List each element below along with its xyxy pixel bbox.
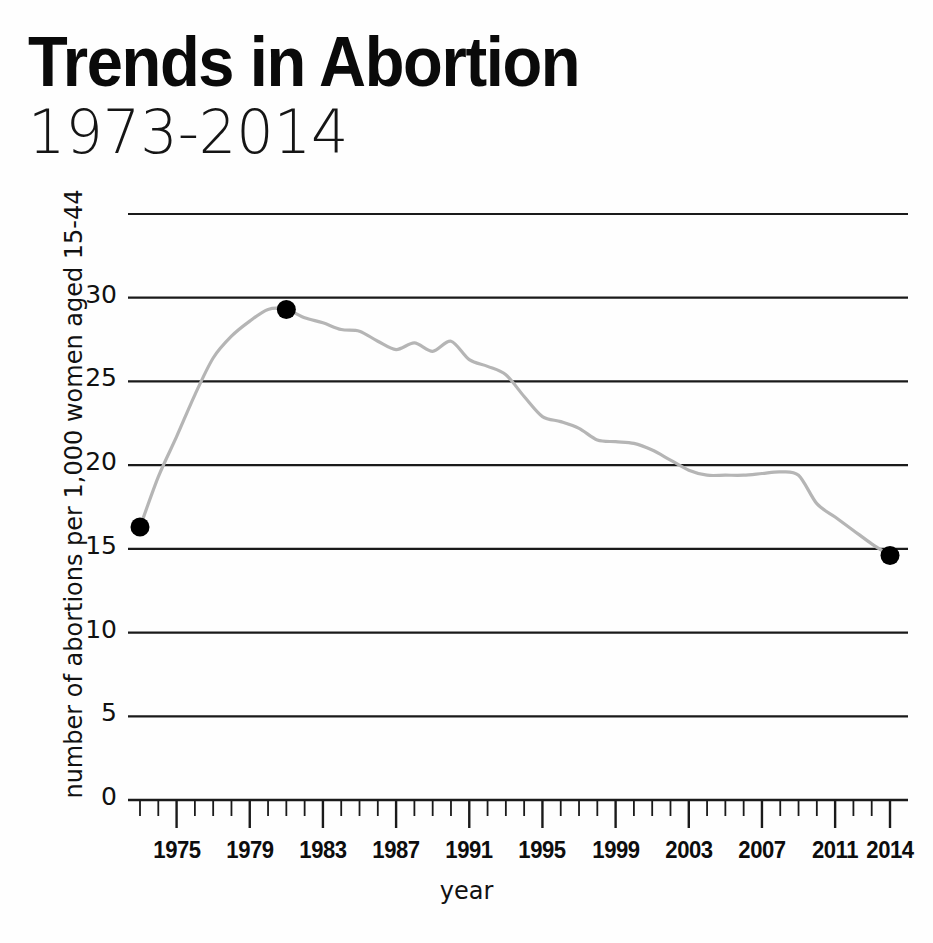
x-axis-title: year (0, 877, 933, 905)
x-tick-label-2007: 2007 (721, 836, 804, 864)
x-axis (128, 800, 908, 828)
data-series-line (140, 308, 890, 555)
x-tick-label-2003: 2003 (647, 836, 730, 864)
y-tick-label-30: 30 (57, 280, 117, 309)
x-tick-label-1979: 1979 (208, 836, 291, 864)
y-tick-label-15: 15 (57, 531, 117, 560)
x-tick-label-1983: 1983 (282, 836, 365, 864)
x-tick-label-1975: 1975 (135, 836, 218, 864)
marker-start (131, 518, 150, 537)
y-tick-label-10: 10 (57, 615, 117, 644)
y-tick-label-0: 0 (57, 782, 117, 811)
y-tick-label-5: 5 (57, 698, 117, 727)
gridlines (128, 214, 908, 716)
x-tick-label-1995: 1995 (501, 836, 584, 864)
title-block: Trends in Abortion 1973-2014 (28, 26, 908, 164)
page-subtitle: 1973-2014 (28, 100, 890, 164)
page-title: Trends in Abortion (28, 26, 846, 98)
x-tick-label-1991: 1991 (428, 836, 511, 864)
y-tick-label-20: 20 (57, 447, 117, 476)
x-tick-label-1999: 1999 (574, 836, 657, 864)
data-markers (131, 300, 900, 565)
marker-end (881, 546, 900, 565)
chart-page: Trends in Abortion 1973-2014 number of a… (0, 0, 933, 943)
x-tick-label-1987: 1987 (355, 836, 438, 864)
y-tick-label-25: 25 (57, 363, 117, 392)
x-tick-label-2014: 2014 (849, 836, 932, 864)
marker-peak (277, 300, 296, 319)
